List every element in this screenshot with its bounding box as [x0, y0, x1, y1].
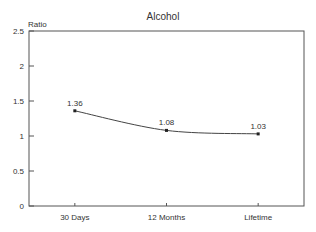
x-tick-label: 12 Months: [148, 213, 185, 222]
data-point-marker: [257, 132, 260, 135]
data-point-marker: [165, 129, 168, 132]
y-tick-label: 0.5: [13, 167, 25, 176]
data-series: 1.361.081.03: [67, 99, 266, 136]
y-tick-label: 1: [20, 132, 25, 141]
y-tick-label: 0: [20, 202, 25, 211]
data-label: 1.08: [159, 118, 175, 127]
y-tick-label: 2.5: [13, 27, 25, 36]
y-axis: 00.511.522.5: [13, 27, 34, 211]
y-axis-label: Ratio: [28, 20, 47, 29]
y-tick-label: 2: [20, 62, 25, 71]
data-point-marker: [73, 109, 76, 112]
chart: Alcohol Ratio 00.511.522.5 30 Days12 Mon…: [0, 0, 316, 232]
line-chart: Alcohol Ratio 00.511.522.5 30 Days12 Mon…: [0, 0, 316, 232]
data-label: 1.36: [67, 99, 83, 108]
chart-title: Alcohol: [147, 11, 180, 22]
x-tick-label: 30 Days: [60, 213, 89, 222]
x-tick-label: Lifetime: [244, 213, 273, 222]
data-label: 1.03: [250, 122, 266, 131]
y-tick-label: 1.5: [13, 97, 25, 106]
